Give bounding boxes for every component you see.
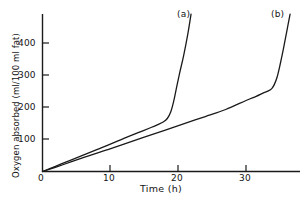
- plot-canvas: [0, 0, 307, 197]
- curve-label-b: (b): [271, 9, 284, 19]
- curve-label-a: (a): [177, 9, 190, 19]
- x-tick-label-0: 0: [38, 173, 44, 183]
- y-axis-title: Oxygen absorbed (ml/100 ml fat): [11, 33, 21, 178]
- y-axis-ticks: [43, 43, 50, 139]
- chart-figure: 400 300 200 100 0 10 20 30 Oxygen absorb…: [0, 0, 307, 197]
- data-curve-b: [43, 14, 291, 171]
- data-curve-a: [43, 14, 192, 171]
- x-axis-title: Time (h): [140, 183, 182, 194]
- x-tick-label-30: 30: [239, 173, 251, 183]
- x-tick-label-20: 20: [171, 173, 183, 183]
- x-tick-label-10: 10: [103, 173, 115, 183]
- x-axis-ticks: [110, 165, 246, 172]
